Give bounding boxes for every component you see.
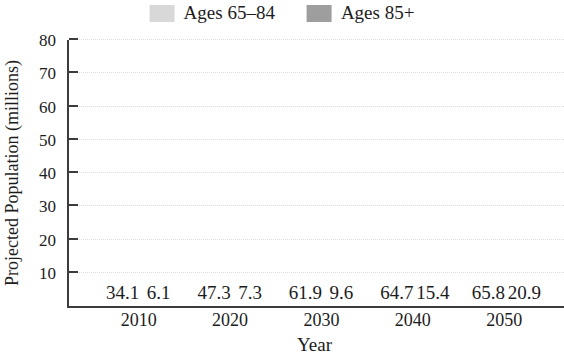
y-tick-label-30: 30 [39, 198, 56, 215]
legend-label-ages-65-84: Ages 65–84 [184, 2, 275, 24]
x-axis-title: Year [67, 335, 562, 356]
bar-groups: 34.16.147.37.361.99.664.715.465.820.9 [69, 40, 564, 306]
y-tick-label-60: 60 [39, 98, 56, 115]
legend-swatch-ages-85-plus-icon [307, 5, 332, 22]
bar-value-label: 9.6 [330, 283, 354, 302]
y-tick-label-50: 50 [39, 131, 56, 148]
bar-value-label: 20.9 [508, 283, 541, 302]
legend-item-ages-65-84: Ages 65–84 [150, 2, 275, 24]
bar-value-label: 6.1 [147, 283, 171, 302]
x-axis-tick-labels: 20102020203020402050 [67, 311, 562, 331]
y-tick-label-40: 40 [39, 165, 56, 182]
x-tick-label-2050: 2050 [486, 311, 522, 331]
bar-chart-figure: Ages 65–84 Ages 85+ Projected Population… [0, 0, 564, 362]
x-tick-label-2040: 2040 [395, 311, 431, 331]
legend-item-ages-85-plus: Ages 85+ [307, 2, 415, 24]
x-tick-label-2010: 2010 [121, 311, 157, 331]
x-tick-label-2020: 2020 [212, 311, 248, 331]
y-axis-title: Projected Population (millions) [0, 40, 24, 306]
y-tick-label-80: 80 [39, 32, 56, 49]
y-tick-label-20: 20 [39, 231, 56, 248]
y-tick-label-70: 70 [39, 65, 56, 82]
y-tick-label-10: 10 [39, 264, 56, 281]
bar-value-label: 15.4 [416, 283, 449, 302]
legend: Ages 65–84 Ages 85+ [150, 2, 415, 24]
bar-value-label: 61.9 [289, 283, 322, 302]
bar-value-label: 47.3 [197, 283, 230, 302]
bar-value-label: 7.3 [238, 283, 262, 302]
x-tick-label-2030: 2030 [303, 311, 339, 331]
plot-area: 34.16.147.37.361.99.664.715.465.820.9 [67, 40, 564, 308]
bar-value-label: 65.8 [472, 283, 505, 302]
legend-label-ages-85-plus: Ages 85+ [341, 2, 415, 24]
bar-value-label: 64.7 [380, 283, 413, 302]
legend-swatch-ages-65-84-icon [150, 5, 175, 22]
y-axis-tick-labels: 1020304050607080 [24, 40, 61, 306]
bar-value-label: 34.1 [106, 283, 139, 302]
